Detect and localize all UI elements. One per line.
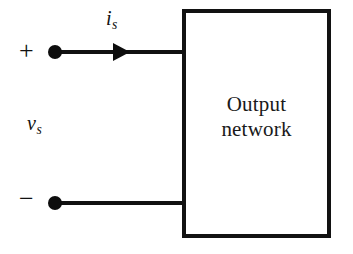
positive-terminal-node [48, 45, 62, 59]
current-label: is [106, 8, 117, 31]
negative-polarity-sign: − [19, 186, 34, 212]
voltage-label: vs [27, 113, 42, 136]
negative-terminal-node [48, 196, 62, 210]
current-subscript: s [112, 17, 117, 32]
current-arrow-icon [113, 43, 130, 61]
voltage-subscript: s [36, 122, 41, 137]
output-network-label: Output network [182, 92, 331, 142]
circuit-diagram-figure: Output network + − is vs [0, 0, 353, 254]
current-symbol: i [106, 7, 112, 29]
voltage-symbol: v [27, 112, 36, 134]
positive-polarity-sign: + [19, 38, 34, 64]
output-network-label-line-2: network [182, 117, 331, 142]
output-network-label-line-1: Output [182, 92, 331, 117]
bottom-wire [54, 201, 185, 205]
